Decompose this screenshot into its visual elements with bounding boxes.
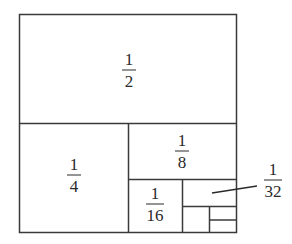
fraction-thirtysecond: 1 32 <box>264 160 282 201</box>
svg-text:1: 1 <box>125 50 134 69</box>
fraction-eighth: 1 8 <box>175 131 189 172</box>
svg-text:1: 1 <box>178 131 187 150</box>
svg-text:1: 1 <box>70 155 79 174</box>
svg-text:16: 16 <box>147 206 164 225</box>
thirtysecond-pointer-line <box>212 186 257 193</box>
svg-text:32: 32 <box>265 182 282 201</box>
svg-text:1: 1 <box>269 160 278 179</box>
svg-text:1: 1 <box>151 184 160 203</box>
fraction-sixteenth: 1 16 <box>146 184 164 225</box>
svg-text:2: 2 <box>125 72 134 91</box>
fraction-quarter: 1 4 <box>67 155 81 196</box>
svg-text:8: 8 <box>178 153 187 172</box>
geometric-series-square-diagram: 1 2 1 4 1 8 1 16 1 32 <box>0 0 292 244</box>
svg-text:4: 4 <box>70 177 79 196</box>
fraction-half: 1 2 <box>122 50 136 91</box>
